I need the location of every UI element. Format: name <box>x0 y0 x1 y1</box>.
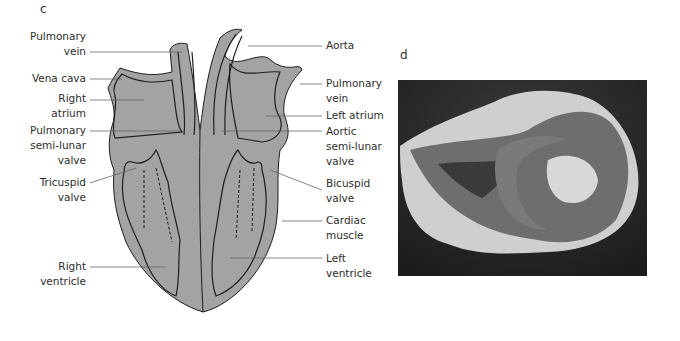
label-pulmonary-vein-right: Pulmonary vein <box>326 76 382 106</box>
label-aorta: Aorta <box>326 38 354 53</box>
panel-d-letter: d <box>400 48 408 62</box>
label-vena-cava: Vena cava <box>14 71 86 86</box>
label-right-ventricle: Right ventricle <box>24 259 86 289</box>
label-tricuspid-valve: Tricuspid valve <box>24 175 86 205</box>
label-left-ventricle: Left ventricle <box>326 251 372 281</box>
label-cardiac-muscle: Cardiac muscle <box>326 213 366 243</box>
label-right-atrium: Right atrium <box>24 91 86 121</box>
label-pulmonary-vein-left: Pulmonary vein <box>24 29 86 59</box>
label-aortic-semilunar-valve: Aortic semi-lunar valve <box>326 124 382 169</box>
label-pulmonary-semilunar-valve: Pulmonary semi-lunar valve <box>20 123 86 168</box>
heart-photograph <box>398 80 647 276</box>
label-bicuspid-valve: Bicuspid valve <box>326 176 370 206</box>
heart-photo-illustration <box>398 80 647 276</box>
label-left-atrium: Left atrium <box>326 108 384 123</box>
